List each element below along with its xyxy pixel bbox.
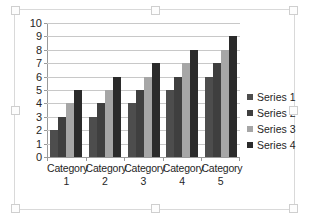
chart-object[interactable]: 012345678910 Category1Category2Category3… [14,9,295,210]
bar-group[interactable] [128,22,160,157]
resize-handle-bottom-center[interactable] [151,204,160,213]
x-tick-mark [201,158,202,161]
legend-item[interactable]: Series 4 [247,137,295,153]
bar[interactable] [105,90,113,157]
x-category-label-word: Category [163,162,202,175]
resize-handle-top-center[interactable] [151,6,160,15]
bar[interactable] [229,36,237,157]
legend-swatch-icon [247,142,253,148]
legend-label: Series 3 [257,124,296,135]
y-tick-label: 1 [36,138,42,149]
y-tick-label: 8 [36,44,42,55]
legend-swatch-icon [247,110,253,116]
bar-group[interactable] [89,22,121,157]
y-tick-label: 10 [30,18,42,29]
y-tick-mark [44,103,47,104]
bar-group[interactable] [205,22,237,157]
legend-label: Series 4 [257,140,296,151]
y-tick-mark [44,23,47,24]
x-category-label-word: Category [86,162,125,175]
y-tick-mark [44,50,47,51]
resize-handle-bottom-right[interactable] [289,204,298,213]
bar[interactable] [182,63,190,157]
bar-group[interactable] [166,22,198,157]
legend-item[interactable]: Series 2 [247,105,295,121]
legend-swatch-icon [247,126,253,132]
bar[interactable] [152,63,160,157]
bar[interactable] [97,103,105,157]
x-category-label-word: Category [47,162,86,175]
bar[interactable] [221,50,229,157]
y-tick-label: 5 [36,85,42,96]
x-category-label-word: Category [201,162,240,175]
y-tick-label: 9 [36,31,42,42]
x-category-label-word: Category [124,162,163,175]
bar[interactable] [74,90,82,157]
resize-handle-middle-right[interactable] [289,106,298,115]
x-axis-category-labels: Category1Category2Category3Category4Cate… [47,162,240,196]
y-tick-mark [44,90,47,91]
bars-layer [47,23,240,158]
bar[interactable] [89,117,97,157]
bar[interactable] [213,63,221,157]
y-tick-mark [44,77,47,78]
x-category-label: Category1 [47,162,86,188]
y-tick-mark [44,130,47,131]
legend-swatch-icon [247,94,253,100]
bar[interactable] [128,103,136,157]
x-category-label: Category4 [163,162,202,188]
legend-item[interactable]: Series 1 [247,89,295,105]
y-tick-label: 0 [36,152,42,163]
x-category-label-number: 4 [163,175,202,188]
bar[interactable] [66,103,74,157]
y-tick-label: 2 [36,125,42,136]
plot-area [47,23,240,158]
y-axis-tick-labels: 012345678910 [20,23,44,158]
y-tick-label: 4 [36,98,42,109]
x-category-label: Category5 [201,162,240,188]
y-tick-label: 7 [36,58,42,69]
x-tick-mark [86,158,87,161]
bar[interactable] [190,50,198,157]
y-tick-mark [44,36,47,37]
resize-handle-top-right[interactable] [289,6,298,15]
bar[interactable] [166,90,174,157]
bar-group[interactable] [50,22,82,157]
y-tick-mark [44,63,47,64]
resize-handle-top-left[interactable] [11,6,20,15]
chart-area[interactable]: 012345678910 Category1Category2Category3… [15,10,294,209]
x-tick-mark [163,158,164,161]
bar[interactable] [113,77,121,157]
x-category-label-number: 3 [124,175,163,188]
resize-handle-bottom-left[interactable] [11,204,20,213]
x-tick-mark [124,158,125,161]
bar[interactable] [136,90,144,157]
legend-label: Series 1 [257,92,296,103]
x-category-label: Category3 [124,162,163,188]
bar[interactable] [144,77,152,157]
legend-item[interactable]: Series 3 [247,121,295,137]
y-tick-mark [44,117,47,118]
resize-handle-middle-left[interactable] [11,106,20,115]
x-category-label: Category2 [86,162,125,188]
chart-legend[interactable]: Series 1Series 2Series 3Series 4 [247,89,295,153]
bar[interactable] [174,77,182,157]
bar[interactable] [205,77,213,157]
x-category-label-number: 2 [86,175,125,188]
x-category-label-number: 1 [47,175,86,188]
x-tick-mark [239,158,240,161]
y-tick-label: 3 [36,111,42,122]
x-tick-mark [47,158,48,161]
bar[interactable] [58,117,66,157]
y-tick-label: 6 [36,71,42,82]
bar[interactable] [50,130,58,157]
y-tick-mark [44,144,47,145]
x-category-label-number: 5 [201,175,240,188]
